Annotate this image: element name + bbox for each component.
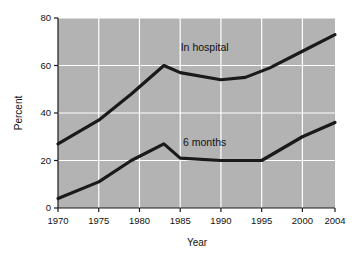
y-axis-tick-label: 0: [46, 202, 51, 213]
y-axis-tick-label: 80: [40, 12, 51, 23]
series-label-6-months: 6 months: [183, 136, 226, 148]
x-axis-tick-label: 2004: [324, 215, 345, 226]
y-axis-tick-label: 60: [40, 60, 51, 71]
x-axis-tick-label: 1980: [129, 215, 150, 226]
series-label-in-hospital: In hospital: [181, 41, 229, 53]
x-axis-tick-label: 1975: [88, 215, 109, 226]
x-axis-tick-label: 1985: [170, 215, 191, 226]
y-axis-title: Percent: [13, 96, 24, 131]
line-chart: 0204060801970197519801985199019952000200…: [0, 0, 356, 263]
x-axis-tick-label: 1970: [47, 215, 68, 226]
chart-figure: 0204060801970197519801985199019952000200…: [0, 0, 356, 263]
x-axis-tick-label: 2000: [292, 215, 313, 226]
x-axis-title: Year: [187, 237, 208, 248]
y-axis-tick-label: 20: [40, 155, 51, 166]
x-axis-tick-label: 1990: [210, 215, 231, 226]
y-axis-tick-label: 40: [40, 107, 51, 118]
x-axis-tick-label: 1995: [251, 215, 272, 226]
